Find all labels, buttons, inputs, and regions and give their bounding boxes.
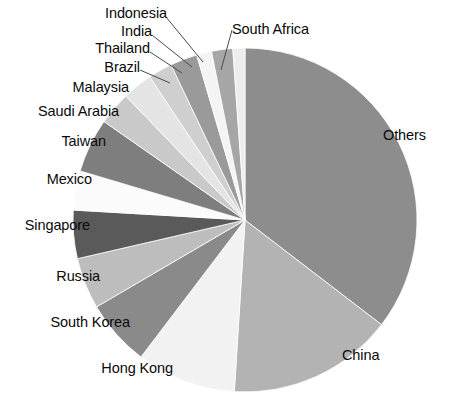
pie-label-others: Others	[383, 128, 426, 143]
pie-label-malaysia: Malaysia	[59, 80, 129, 95]
pie-label-thailand: Thailand	[88, 41, 150, 56]
pie-label-singapore: Singapore	[12, 218, 90, 233]
pie-chart: Others China Hong Kong South Korea Russi…	[0, 0, 449, 394]
pie-label-mexico: Mexico	[38, 172, 92, 187]
pie-label-india: India	[117, 24, 152, 39]
pie-label-hong-kong: Hong Kong	[93, 361, 173, 376]
pie-label-south-africa: South Africa	[232, 22, 309, 37]
pie-label-saudi-arabia: Saudi Arabia	[29, 104, 119, 119]
pie-chart-canvas	[0, 0, 449, 394]
pie-label-indonesia: Indonesia	[95, 6, 167, 21]
leader-line-indonesia	[166, 17, 203, 62]
leader-line-india	[152, 35, 192, 67]
pie-label-russia: Russia	[47, 269, 100, 284]
pie-label-china: China	[342, 348, 379, 363]
pie-label-south-korea: South Korea	[35, 315, 130, 330]
pie-label-taiwan: Taiwan	[56, 134, 106, 149]
pie-label-brazil: Brazil	[94, 60, 140, 75]
pie-slice-group	[73, 48, 417, 392]
